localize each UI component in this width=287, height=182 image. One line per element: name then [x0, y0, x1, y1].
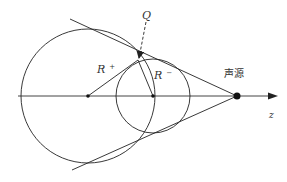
upper-tangent-line	[70, 19, 237, 96]
source-dot	[234, 93, 241, 100]
source-label: 声源	[224, 67, 244, 79]
z-axis-label: z	[268, 110, 274, 120]
large-circle-center-dot	[86, 94, 90, 98]
r-minus-label: R −	[153, 65, 172, 82]
z-axis-arrow-icon	[268, 93, 278, 100]
small-circle-center-dot	[151, 94, 155, 98]
wavefront-diagram: Q R + R − 声源 z	[0, 0, 287, 182]
radius-r-minus	[138, 60, 153, 96]
r-minus-sup: −	[166, 69, 172, 77]
r-minus-base: R	[153, 69, 162, 82]
q-label: Q	[142, 9, 151, 22]
r-plus-base: R	[96, 63, 105, 76]
r-plus-label: R +	[96, 59, 115, 76]
r-plus-sup: +	[109, 63, 115, 71]
